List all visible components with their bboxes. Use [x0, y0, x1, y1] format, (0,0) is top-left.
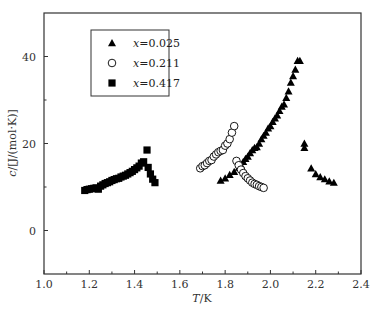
- triangle-marker: [287, 79, 295, 86]
- x-tick-label: 2.0: [262, 278, 280, 291]
- legend-label: x=0.211: [133, 57, 180, 70]
- x-tick-label: 2.2: [307, 278, 325, 291]
- square-marker: [151, 179, 158, 186]
- circle-marker: [230, 122, 238, 130]
- legend-label: x=0.025: [133, 37, 180, 50]
- triangle-marker: [291, 66, 299, 73]
- circle-marker: [108, 59, 116, 67]
- series-x=0.417: [81, 146, 158, 194]
- x-tick-label: 1.6: [171, 278, 189, 291]
- x-tick-label: 1.0: [35, 278, 53, 291]
- x-tick-label: 1.4: [126, 278, 144, 291]
- y-tick-label: 0: [29, 225, 36, 238]
- triangle-marker: [282, 94, 290, 101]
- square-marker: [108, 79, 115, 86]
- series-x=0.211: [196, 122, 267, 191]
- y-axis-label: c/[J/(mol·K)]: [6, 109, 19, 176]
- circle-marker: [260, 184, 268, 192]
- x-tick-label: 2.4: [352, 278, 370, 291]
- triangle-marker: [289, 72, 297, 79]
- legend-label: x=0.417: [133, 77, 180, 90]
- square-marker: [145, 164, 152, 171]
- square-marker: [143, 146, 150, 153]
- x-tick-label: 1.8: [216, 278, 234, 291]
- y-tick-label: 40: [22, 51, 36, 64]
- triangle-marker: [285, 87, 293, 94]
- triangle-marker: [307, 164, 315, 171]
- legend: x=0.025x=0.211x=0.417: [91, 30, 180, 96]
- x-tick-label: 1.2: [81, 278, 99, 291]
- y-tick-label: 20: [22, 138, 36, 151]
- x-axis: 1.01.21.41.61.82.02.22.4: [35, 270, 370, 291]
- x-axis-label: T/K: [192, 292, 212, 305]
- chart: 1.01.21.41.61.82.02.22.4 02040 x=0.025x=…: [0, 0, 377, 312]
